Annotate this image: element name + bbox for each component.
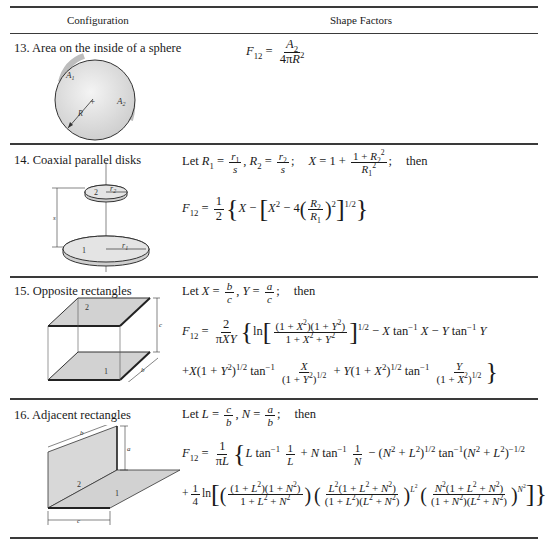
- formula-adjacent-line2: F12 = 1πL{L tan−1 1L + N tan−1 1N − (N2 …: [182, 440, 525, 469]
- formula-disks-line2: F12 = 12{X − [X2 − 4(R2R1)2]1/2}: [182, 195, 368, 224]
- opposite-rectangles-diagram: 2 1 c b: [40, 292, 175, 382]
- sphere-diagram: + A1 A2 R: [44, 52, 154, 142]
- formula-opposite-line1: Let X = bc, Y = ac;then: [182, 280, 315, 305]
- formula-adjacent-line3: +14ln[((1 + L2)(1 + N2)1 + L2 + N2) (L2(…: [182, 482, 547, 507]
- svg-text:1: 1: [82, 246, 86, 255]
- header-bottom-rule: [10, 33, 538, 34]
- svg-text:2: 2: [94, 188, 98, 197]
- formula-disks-line1: Let R1 = r1s, R2 = r2s;X = 1 + 1 + R22R1…: [182, 150, 428, 175]
- formula-opposite-line2: F12 = 2πXY{ln[(1 + X2)(1 + Y2)1 + X2 + Y…: [182, 318, 486, 347]
- row-separator: [10, 398, 538, 400]
- coaxial-disks-diagram: 2 r2 1 r1 s: [44, 160, 154, 275]
- svg-text:c: c: [77, 517, 81, 525]
- svg-text:1: 1: [115, 489, 119, 498]
- svg-text:a: a: [127, 445, 131, 453]
- column-header-shape-factors: Shape Factors: [330, 14, 392, 26]
- svg-text:2: 2: [77, 480, 81, 489]
- svg-text:+: +: [90, 96, 95, 106]
- row-separator: [10, 276, 538, 278]
- svg-text:b: b: [141, 366, 145, 374]
- table-bottom-rule: [10, 537, 538, 539]
- table-top-rule: [10, 6, 538, 8]
- svg-text:b: b: [80, 429, 84, 437]
- label-r: R: [77, 109, 83, 118]
- svg-text:1: 1: [104, 367, 108, 376]
- formula-adjacent-line1: Let L = cb, N = ab;then: [182, 403, 316, 428]
- formula-sphere: F12 = A24πR2: [246, 38, 308, 67]
- svg-text:c: c: [159, 321, 163, 329]
- column-header-configuration: Configuration: [67, 14, 129, 26]
- svg-text:s: s: [53, 214, 56, 222]
- row-separator: [10, 143, 538, 145]
- adjacent-rectangles-diagram: 2 1 b a c: [40, 425, 190, 535]
- row-label: 16. Adjacent rectangles: [14, 408, 131, 423]
- svg-text:2: 2: [85, 303, 89, 312]
- formula-opposite-line3: +X(1 + Y2)1/2 tan−1 X(1 + Y2)1/2 + Y(1 +…: [182, 360, 498, 385]
